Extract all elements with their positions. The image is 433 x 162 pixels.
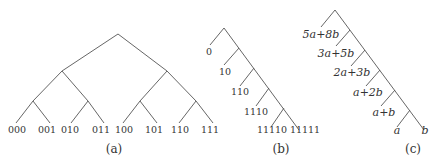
- panel-caption: (a): [106, 142, 123, 156]
- leaf-label: 010: [61, 124, 79, 135]
- leaf-label: 1110: [244, 106, 268, 117]
- leaf-label: 0: [206, 46, 212, 57]
- leaf-label: 001: [38, 124, 56, 135]
- panel-caption: (b): [272, 142, 289, 156]
- leaf-label: 11110: [257, 124, 287, 135]
- leaf-label: a: [394, 124, 401, 137]
- node-label: a+b: [373, 106, 396, 119]
- node-label: 5a+8b: [303, 28, 340, 41]
- leaf-label: 110: [231, 86, 249, 97]
- figure-canvas: 000 001 010 011 100 101 110 111 (a) 0 10…: [0, 0, 433, 162]
- leaf-label: 111: [201, 124, 219, 135]
- leaf-label: 011: [92, 124, 110, 135]
- leaf-label: 10: [219, 66, 231, 77]
- leaf-label: 000: [8, 124, 26, 135]
- node-label: 2a+3b: [333, 66, 371, 79]
- node-label: a+2b: [353, 86, 383, 99]
- leaf-label: 110: [171, 124, 189, 135]
- node-label: 3a+5b: [318, 47, 355, 60]
- leaf-label: 11111: [290, 124, 320, 135]
- tree-a: 000 001 010 011 100 101 110 111 (a): [8, 34, 219, 156]
- panel-caption: (c): [405, 142, 421, 156]
- tree-b: 0 10 110 1110 11110 11111 (b): [206, 28, 320, 156]
- leaf-label: b: [421, 124, 428, 137]
- leaf-label: 100: [115, 124, 133, 135]
- tree-c: 5a+8b 3a+5b 2a+3b a+2b a+b a b (c): [303, 10, 429, 156]
- leaf-label: 101: [145, 124, 163, 135]
